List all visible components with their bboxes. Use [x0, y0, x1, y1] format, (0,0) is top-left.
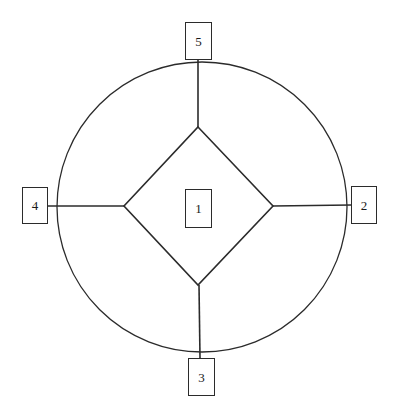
- node-box-4[interactable]: 4: [22, 187, 48, 224]
- spoke-bottom-line: [199, 285, 200, 358]
- node-box-3[interactable]: 3: [188, 358, 215, 396]
- node-box-2[interactable]: 2: [351, 186, 377, 224]
- node-label-1: 1: [195, 202, 202, 215]
- node-box-5[interactable]: 5: [185, 22, 212, 60]
- spoke-right-line: [273, 205, 351, 206]
- node-label-2: 2: [361, 199, 368, 212]
- node-label-4: 4: [32, 199, 39, 212]
- node-label-5: 5: [195, 35, 202, 48]
- node-label-3: 3: [198, 371, 205, 384]
- diagram-canvas: 5 4 1 2 3: [0, 0, 397, 416]
- node-box-1[interactable]: 1: [185, 189, 212, 228]
